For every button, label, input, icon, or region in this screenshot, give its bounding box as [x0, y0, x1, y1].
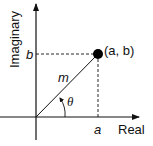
angle-arc [60, 98, 65, 117]
magnitude-label: m [58, 70, 69, 85]
point-label: (a, b) [104, 43, 134, 58]
y-axis-label: Imaginary [7, 10, 22, 68]
x-axis-label: Real [118, 122, 145, 137]
point-ab [93, 49, 103, 59]
complex-plane-diagram: (a, b) b a Real Imaginary m θ [0, 0, 153, 146]
x-tick-a: a [94, 122, 101, 137]
angle-label: θ [67, 94, 74, 109]
y-tick-b: b [26, 47, 33, 62]
